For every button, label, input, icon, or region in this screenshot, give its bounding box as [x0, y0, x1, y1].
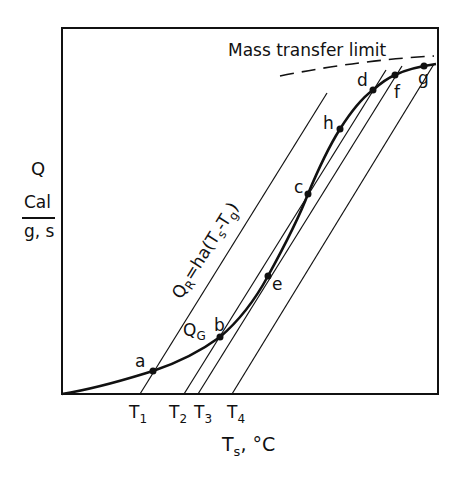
label-e: e: [272, 274, 282, 294]
point-h: [337, 126, 344, 133]
line-T1: [140, 93, 327, 394]
label-h: h: [323, 113, 334, 133]
label-a: a: [135, 351, 145, 371]
tick-T3: T3: [193, 402, 212, 426]
label-c: c: [294, 177, 303, 197]
y-axis-unit-denominator: g, s: [24, 221, 55, 241]
label-g: g: [418, 68, 429, 88]
point-f: [392, 72, 399, 79]
x-axis-label: Ts, °C: [221, 433, 275, 459]
point-c: [305, 191, 312, 198]
y-axis-symbol: Q: [31, 158, 45, 179]
tick-T4: T4: [226, 402, 245, 426]
tick-T1: T1: [128, 402, 147, 426]
point-d: [370, 87, 377, 94]
reactor-stability-diagram: a b e c h d f g Mass transfer limit QR=h…: [0, 0, 463, 478]
label-d: d: [357, 70, 368, 90]
label-f: f: [394, 82, 401, 102]
mass-transfer-limit-label: Mass transfer limit: [228, 40, 386, 60]
tick-T2: T2: [168, 402, 187, 426]
point-e: [265, 273, 272, 280]
label-b: b: [214, 315, 225, 335]
heat-generation-label: QG: [183, 320, 206, 343]
point-a: [150, 368, 157, 375]
heat-generation-curve: [62, 64, 436, 394]
heat-removal-lines: [140, 64, 434, 394]
y-axis-unit-numerator: Cal: [24, 192, 51, 212]
